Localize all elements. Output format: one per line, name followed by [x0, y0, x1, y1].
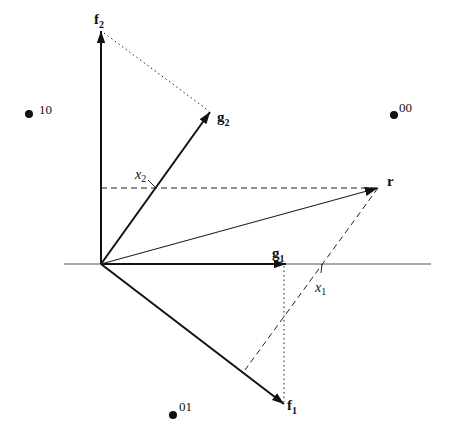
- constellation-point-00: [390, 111, 398, 119]
- label-point-00: 00: [399, 100, 412, 115]
- signal-space-diagram: f2 g2 g1 f1 r x2 x1 10 00 01: [0, 0, 450, 442]
- dashed-r-parallel-f2: [245, 188, 378, 370]
- label-f1: f1: [287, 397, 297, 416]
- label-x1: x1: [314, 280, 326, 297]
- vector-f1: [101, 264, 284, 404]
- label-point-01: 01: [179, 399, 192, 414]
- x2-tick: [148, 180, 156, 188]
- label-r: r: [387, 173, 394, 189]
- vector-r: [101, 188, 378, 264]
- constellation-point-10: [25, 110, 33, 118]
- label-g1: g1: [272, 245, 285, 264]
- label-f2: f2: [94, 11, 104, 30]
- label-g2: g2: [217, 109, 230, 128]
- constellation-point-01: [169, 411, 177, 419]
- label-x2: x2: [134, 167, 146, 184]
- dotted-f2-g2: [104, 33, 209, 111]
- label-point-10: 10: [39, 102, 52, 117]
